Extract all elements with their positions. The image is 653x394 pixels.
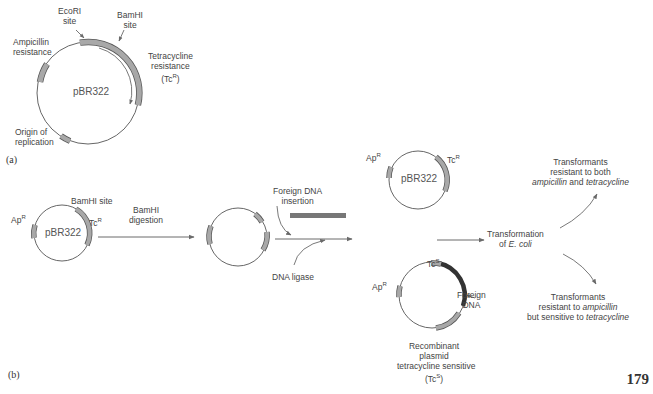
plasmid-top-name: pBR322 xyxy=(401,174,437,184)
foreign-dna-label: ForeignDNA xyxy=(457,290,486,310)
ecori-site-label: EcoRIsite xyxy=(58,6,81,26)
ligase-label: DNA ligase xyxy=(272,272,314,282)
tc-label-bottom: TcS xyxy=(427,256,440,269)
outcome-bottom-label: Transformants resistant to ampicillin bu… xyxy=(527,292,629,322)
outcome-top-label: Transformants resistant to both ampicill… xyxy=(532,157,629,187)
panel-b-label: (b) xyxy=(8,370,20,380)
ampicillin-label: Ampicillinresistance xyxy=(13,37,52,57)
insertion-curve-arrow xyxy=(277,206,291,235)
tc-label-top: TcR xyxy=(447,152,460,165)
bamhi-site-label-b: BamHI site xyxy=(71,196,113,206)
digestion-label: BamHIdigestion xyxy=(129,205,163,225)
ap-label-bottom: ApR xyxy=(372,279,387,292)
insertion-label: Foreign DNAinsertion xyxy=(273,186,322,206)
recombinant-caption: Recombinant plasmid tetracycline sensiti… xyxy=(397,341,471,384)
plasmid-a-name: pBR322 xyxy=(73,87,109,97)
tetracycline-label: Tetracycline resistance (TcR) xyxy=(148,51,193,84)
ap-label-top: ApR xyxy=(366,150,381,163)
outcome-bottom-arrow xyxy=(563,254,596,284)
plasmid-cut xyxy=(209,208,267,266)
page-number: 179 xyxy=(627,371,650,388)
bamhi-pointer xyxy=(119,30,124,41)
ecori-pointer xyxy=(76,30,84,38)
outcome-top-arrow xyxy=(560,194,597,228)
ligase-curve-arrow xyxy=(294,240,325,265)
plasmid-b1-name: pBR322 xyxy=(45,228,81,238)
foreign-dna-fragment xyxy=(290,213,346,218)
bamhi-site-label: BamHIsite xyxy=(117,10,143,30)
ap-label-b1: ApR xyxy=(11,212,26,225)
transformation-label: Transformation of E. coli xyxy=(487,229,544,249)
origin-label: Origin ofreplication xyxy=(15,127,54,147)
panel-a-label: (a) xyxy=(6,155,17,165)
tc-label-b1: TcR xyxy=(89,215,102,228)
